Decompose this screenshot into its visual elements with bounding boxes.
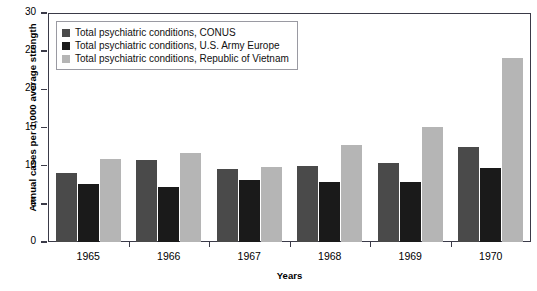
bar-1966-series-2 <box>158 187 179 242</box>
x-tick-mark <box>209 242 210 247</box>
bar-1967-series-2 <box>239 180 260 242</box>
legend-item-3: Total psychiatric conditions, Republic o… <box>62 52 289 65</box>
x-tick-mark <box>370 242 371 247</box>
y-tick-label: 0 <box>0 235 36 246</box>
x-tick-label-1967: 1967 <box>219 250 279 262</box>
y-tick-label: 10 <box>0 159 36 170</box>
bar-1970-series-3 <box>502 58 523 242</box>
legend-swatch-icon <box>62 29 70 37</box>
y-tick-mark <box>41 165 47 166</box>
bar-1969-series-3 <box>422 127 443 242</box>
bar-1965-series-3 <box>100 159 121 242</box>
x-tick-label-1966: 1966 <box>139 250 199 262</box>
x-tick-mark <box>451 242 452 247</box>
legend-item-2: Total psychiatric conditions, U.S. Army … <box>62 39 289 52</box>
y-tick-mark <box>41 50 47 51</box>
y-tick-label: 20 <box>0 82 36 93</box>
x-tick-mark <box>290 242 291 247</box>
legend-item-1: Total psychiatric conditions, CONUS <box>62 26 289 39</box>
y-tick-mark <box>41 203 47 204</box>
legend-swatch-icon <box>62 55 70 63</box>
y-tick-label: 5 <box>0 197 36 208</box>
x-tick-label-1968: 1968 <box>300 250 360 262</box>
bar-1968-series-2 <box>319 182 340 242</box>
x-tick-label-1969: 1969 <box>380 250 440 262</box>
bar-1965-series-2 <box>78 184 99 242</box>
bar-1968-series-1 <box>297 166 318 242</box>
bar-chart: Annual cases per 1,000 average strength … <box>0 0 537 291</box>
y-tick-label: 25 <box>0 44 36 55</box>
bar-1969-series-1 <box>378 163 399 242</box>
bar-1970-series-1 <box>458 147 479 242</box>
legend-label: Total psychiatric conditions, CONUS <box>75 26 236 39</box>
x-tick-label-1965: 1965 <box>58 250 118 262</box>
bar-1967-series-3 <box>261 167 282 242</box>
bar-1966-series-1 <box>136 160 157 242</box>
bar-1970-series-2 <box>480 168 501 242</box>
x-tick-label-1970: 1970 <box>461 250 521 262</box>
y-tick-label: 30 <box>0 6 36 17</box>
y-tick-mark <box>41 89 47 90</box>
x-axis-title: Years <box>48 270 531 281</box>
legend-swatch-icon <box>62 42 70 50</box>
y-tick-mark <box>41 12 47 13</box>
legend-label: Total psychiatric conditions, Republic o… <box>75 52 289 65</box>
bar-1968-series-3 <box>341 145 362 242</box>
y-tick-label: 15 <box>0 121 36 132</box>
x-tick-mark <box>129 242 130 247</box>
bar-1969-series-2 <box>400 182 421 242</box>
y-tick-mark <box>41 241 47 242</box>
bar-1965-series-1 <box>56 173 77 242</box>
y-tick-mark <box>41 127 47 128</box>
bar-1967-series-1 <box>217 169 238 242</box>
chart-legend: Total psychiatric conditions, CONUSTotal… <box>56 21 298 70</box>
bar-1966-series-3 <box>180 153 201 242</box>
legend-label: Total psychiatric conditions, U.S. Army … <box>75 39 280 52</box>
